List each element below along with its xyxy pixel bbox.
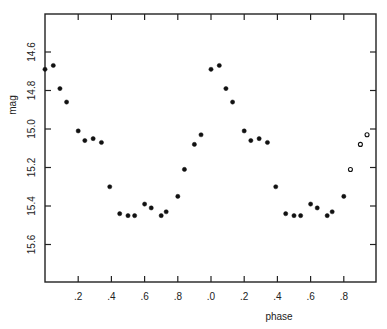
x-tick-label: .8 (174, 291, 183, 302)
y-tick-label: 15.6 (26, 234, 37, 254)
x-axis: .2.4.6.8.0.2.4.6.8 (74, 14, 348, 302)
y-tick-label: 15.2 (26, 157, 37, 177)
x-tick-label: .2 (74, 291, 83, 302)
data-point (330, 210, 334, 214)
data-point (199, 133, 203, 137)
data-point (348, 167, 352, 171)
data-point (159, 214, 163, 218)
x-tick-label: .2 (240, 291, 249, 302)
data-point (118, 212, 122, 216)
data-point (265, 140, 269, 144)
data-point (284, 212, 288, 216)
data-point (58, 86, 62, 90)
x-tick-label: .6 (306, 291, 315, 302)
data-point (230, 100, 234, 104)
data-point (192, 142, 196, 146)
data-point (64, 100, 68, 104)
data-point (342, 194, 346, 198)
data-point (315, 206, 319, 210)
data-point (176, 194, 180, 198)
x-tick-label: .4 (107, 291, 116, 302)
data-points (43, 63, 369, 217)
data-point (292, 214, 296, 218)
data-point (309, 202, 313, 206)
data-point (76, 129, 80, 133)
data-point (143, 202, 147, 206)
data-point (217, 63, 221, 67)
data-point (358, 142, 362, 146)
data-point (51, 63, 55, 67)
data-point (257, 137, 261, 141)
light-curve-chart: .2.4.6.8.0.2.4.6.8 14.614.815.015.215.41… (0, 0, 387, 329)
data-point (182, 167, 186, 171)
data-point (224, 86, 228, 90)
data-point (149, 206, 153, 210)
data-point (249, 138, 253, 142)
data-point (365, 133, 369, 137)
data-point (43, 67, 47, 71)
data-point (325, 214, 329, 218)
data-point (99, 140, 103, 144)
y-tick-label: 15.0 (26, 119, 37, 139)
x-axis-title: phase (265, 311, 293, 322)
y-axis-title: mag (7, 95, 18, 114)
data-point (209, 67, 213, 71)
data-point (242, 129, 246, 133)
y-tick-label: 15.4 (26, 196, 37, 216)
x-tick-label: .4 (273, 291, 282, 302)
y-axis: 14.614.815.015.215.415.6 (26, 42, 376, 254)
y-tick-label: 14.6 (26, 42, 37, 62)
x-tick-label: .0 (207, 291, 216, 302)
data-point (299, 214, 303, 218)
data-point (126, 214, 130, 218)
data-point (164, 210, 168, 214)
data-point (83, 138, 87, 142)
x-tick-label: .8 (340, 291, 349, 302)
data-point (108, 185, 112, 189)
plot-border (45, 14, 376, 282)
data-point (274, 185, 278, 189)
data-point (133, 214, 137, 218)
x-tick-label: .6 (140, 291, 149, 302)
data-point (91, 137, 95, 141)
plot-frame (45, 14, 376, 282)
y-tick-label: 14.8 (26, 80, 37, 100)
